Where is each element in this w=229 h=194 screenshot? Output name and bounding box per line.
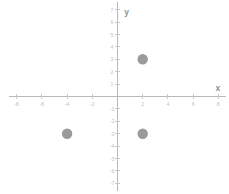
scatter-plot-canvas: -8-6-4-224687654321-1-2-3-4-5-6-7yx(2, 3… [0,0,229,194]
y-axis-tick-label: -5 [110,156,115,162]
y-axis-tick-label: -7 [110,180,115,186]
x-axis-tick-label: -8 [14,101,19,107]
x-axis-tick-label: -2 [90,101,95,107]
x-axis-label: x [215,83,220,93]
y-axis-tick-label: 2 [111,69,114,75]
data-point-marker: (2, -3) [138,129,148,139]
y-axis-tick-label: 4 [111,44,114,50]
y-axis-tick-label: -3 [110,131,115,137]
y-axis-tick-label: 5 [111,32,114,38]
y-axis-tick-label: 7 [111,7,114,13]
x-axis-tick-label: 4 [166,101,169,107]
y-axis-tick-label: -2 [110,118,115,124]
x-axis-tick-label: 8 [217,101,220,107]
data-point-marker: (2, 3) [138,54,148,64]
y-axis-tick-label: 1 [111,81,114,87]
x-axis-tick-label: 2 [141,101,144,107]
y-axis-tick-label: -4 [110,143,115,149]
x-axis-tick-label: 6 [192,101,195,107]
x-axis-tick-label: -4 [65,101,70,107]
data-point-marker: (-4, -3) [62,129,72,139]
coordinate-plane-figure: -8-6-4-224687654321-1-2-3-4-5-6-7yx(2, 3… [0,0,229,194]
y-axis-label: y [124,7,129,17]
y-axis-tick-label: 6 [111,19,114,25]
x-axis-tick-label: -6 [40,101,45,107]
y-axis-tick-label: 3 [111,56,114,62]
y-axis-tick-label: -6 [110,168,115,174]
y-axis-tick-label: -1 [110,106,115,112]
